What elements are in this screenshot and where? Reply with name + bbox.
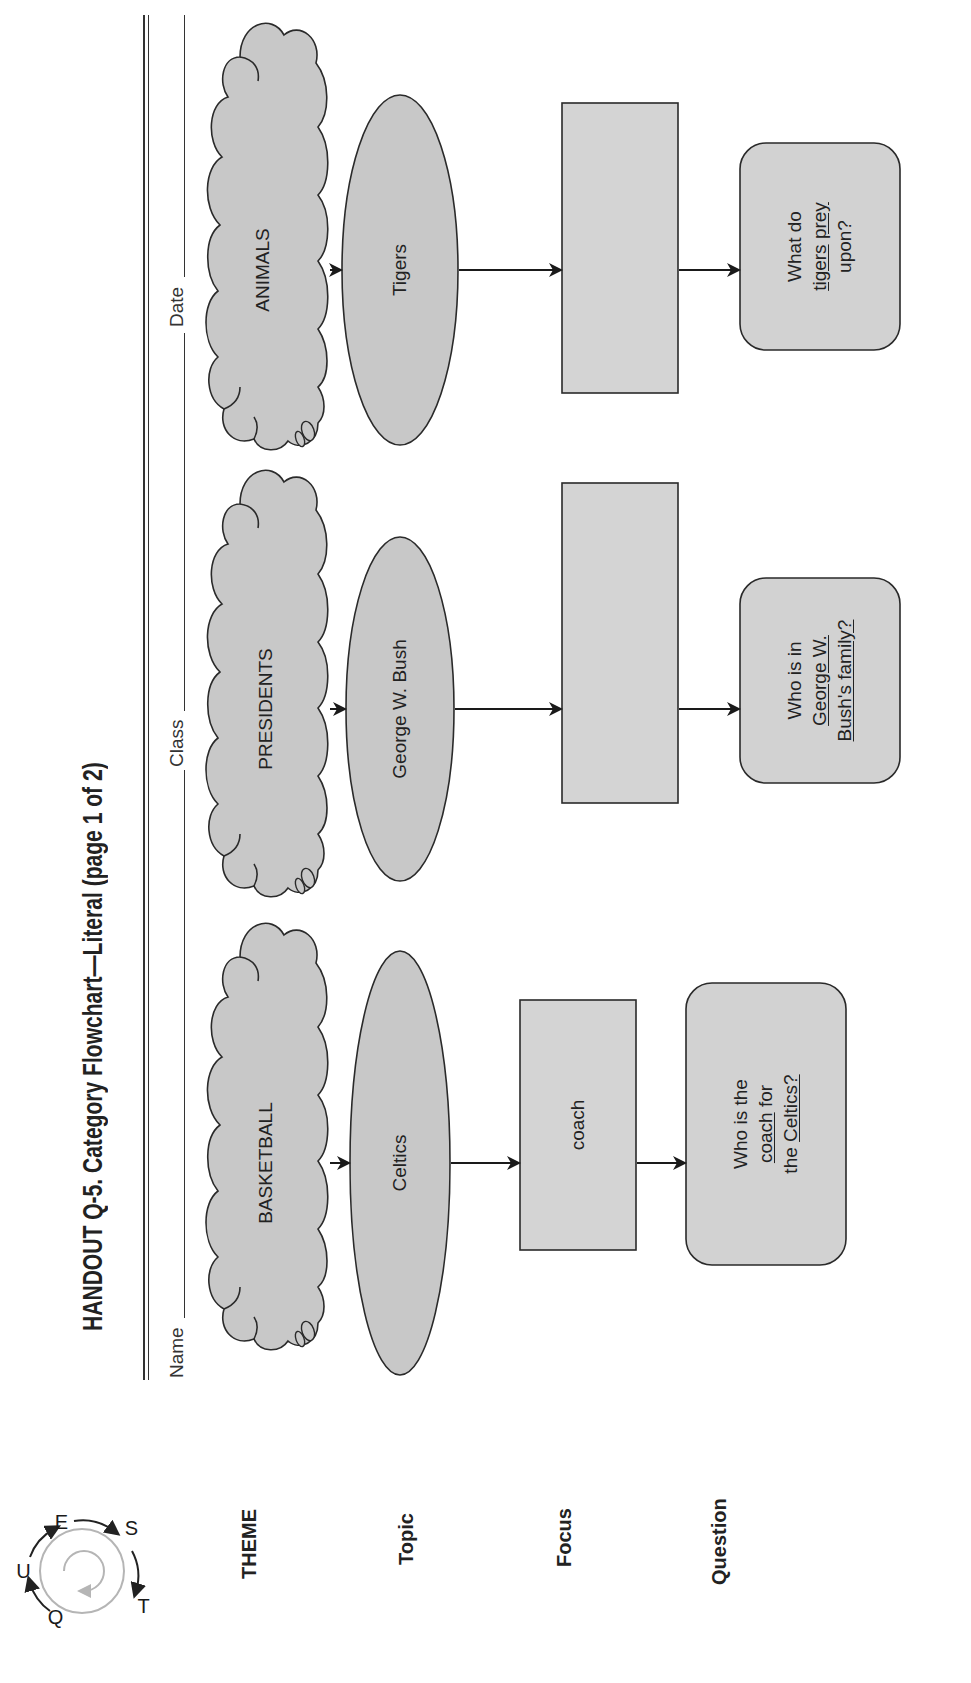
topic-text-3: Tigers [389, 170, 411, 370]
focus-box-2 [562, 483, 678, 803]
handout-page: Q U E S T HANDOUT Q-5. Category Flowchar… [0, 0, 971, 1683]
question-text-2: Who is in George W. Bush's family? [782, 578, 857, 783]
theme-text-2: PRESIDENTS [255, 609, 277, 809]
topic-text-2: George W. Bush [389, 609, 411, 809]
question-text-3: What do tigers prey upon? [782, 143, 857, 350]
focus-text-1[interactable]: coach [567, 1025, 589, 1225]
question-text-1: Who is the coach for the Celtics? [728, 983, 803, 1265]
topic-text-1: Celtics [389, 1063, 411, 1263]
theme-text-3: ANIMALS [252, 170, 274, 370]
theme-text-1: BASKETBALL [255, 1063, 277, 1263]
focus-box-3 [562, 103, 678, 393]
